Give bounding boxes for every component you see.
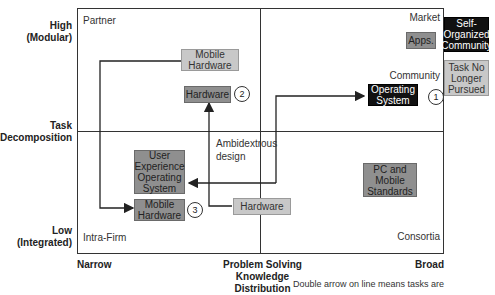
marker-3: 3 — [187, 202, 203, 218]
box-text: Apps. — [408, 35, 434, 46]
box-text: Mobile — [145, 199, 174, 210]
box-mobile-hardware-intra-firm: Mobile Hardware — [134, 199, 185, 221]
box-text: PC and — [373, 164, 406, 175]
footnote: Double arrow on line means tasks are — [293, 279, 444, 289]
box-self-organized-community: Self- Organized Community — [444, 17, 489, 52]
annotation-line1: Ambidextrous — [216, 137, 277, 150]
box-text: Standards — [367, 186, 413, 197]
box-ux-operating-system-intra-firm: User Experience Operating System — [134, 150, 185, 194]
box-text: System — [143, 183, 176, 194]
box-pc-mobile-standards: PC and Mobile Standards — [363, 163, 417, 197]
box-apps: Apps. — [406, 32, 436, 49]
box-text: Operating — [138, 172, 182, 183]
ambidextrous-design-label: Ambidextrous design — [216, 137, 277, 163]
marker-1: 1 — [428, 89, 444, 105]
box-hardware-intra-firm: Hardware — [233, 198, 291, 215]
box-text: User — [149, 150, 170, 161]
box-text: Hardware — [188, 60, 231, 71]
box-text: Organized — [443, 29, 489, 40]
annotation-line2: design — [216, 150, 277, 163]
box-text: Operating — [371, 84, 415, 95]
box-text: Hardware — [240, 201, 283, 212]
box-task-no-longer-pursued: Task No Longer Pursued — [444, 60, 489, 96]
box-text: Longer — [451, 73, 482, 84]
box-text: Mobile — [375, 175, 404, 186]
box-operating-system-community: Operating System — [368, 84, 418, 106]
box-text: System — [376, 95, 409, 106]
box-text: Mobile — [195, 49, 224, 60]
box-text: Self- — [456, 18, 477, 29]
box-text: Community — [441, 40, 492, 51]
box-text: Experience — [134, 161, 184, 172]
box-text: Hardware — [186, 89, 229, 100]
box-hardware-partner: Hardware — [184, 86, 231, 103]
box-text: Task No — [448, 62, 484, 73]
marker-2: 2 — [234, 86, 250, 102]
box-text: Pursued — [448, 84, 485, 95]
box-text: Hardware — [138, 210, 181, 221]
box-mobile-hardware-partner: Mobile Hardware — [181, 49, 239, 71]
